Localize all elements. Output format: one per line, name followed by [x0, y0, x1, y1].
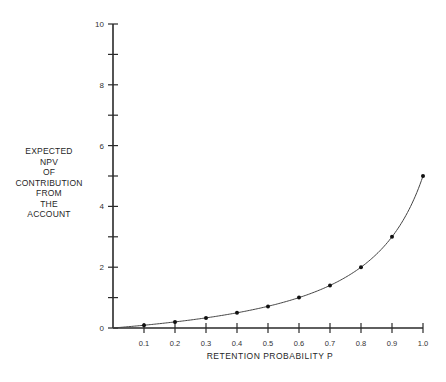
x-tick-label: 0.9 [387, 339, 397, 348]
x-axis-label: RETENTION PROBABILITY P [205, 351, 335, 361]
y-tick-label: 10 [95, 20, 104, 29]
data-point [235, 311, 239, 315]
x-tick-label: 0.5 [263, 339, 273, 348]
y-axis-label-line: ACCOUNT [10, 209, 88, 220]
data-point [266, 304, 270, 308]
y-tick-label: 6 [100, 142, 105, 151]
x-tick-label: 0.8 [356, 339, 366, 348]
y-axis-label-line: THE [10, 199, 88, 210]
y-tick-label: 8 [100, 81, 105, 90]
x-tick-label: 0.2 [170, 339, 180, 348]
x-axis-ticks: 0.10.20.30.40.50.60.70.80.91.0 [139, 323, 428, 348]
y-tick-label: 0 [100, 324, 105, 333]
x-tick-label: 0.1 [139, 339, 149, 348]
y-axis-label: EXPECTEDNPVOFCONTRIBUTIONFROMTHEACCOUNT [10, 146, 88, 220]
y-axis-label-line: OF [10, 167, 88, 178]
data-point [359, 265, 363, 269]
y-axis-ticks: 0246810 [95, 20, 118, 333]
y-axis-label-line: CONTRIBUTION [10, 178, 88, 189]
x-tick-label: 0.3 [201, 339, 211, 348]
data-point [390, 235, 394, 239]
data-point [204, 316, 208, 320]
x-tick-label: 0.4 [232, 339, 242, 348]
x-tick-label: 0.6 [294, 339, 304, 348]
data-point [421, 174, 425, 178]
y-tick-label: 4 [100, 202, 105, 211]
y-axis-label-line: EXPECTED [10, 146, 88, 157]
y-axis-label-line: FROM [10, 188, 88, 199]
data-points [142, 174, 425, 327]
data-point [173, 320, 177, 324]
axes [113, 24, 423, 328]
data-point [297, 296, 301, 300]
x-tick-label: 1.0 [418, 339, 428, 348]
data-point [142, 323, 146, 327]
data-point [328, 283, 332, 287]
y-axis-label-line: NPV [10, 157, 88, 168]
y-tick-label: 2 [100, 263, 105, 272]
x-tick-label: 0.7 [325, 339, 335, 348]
